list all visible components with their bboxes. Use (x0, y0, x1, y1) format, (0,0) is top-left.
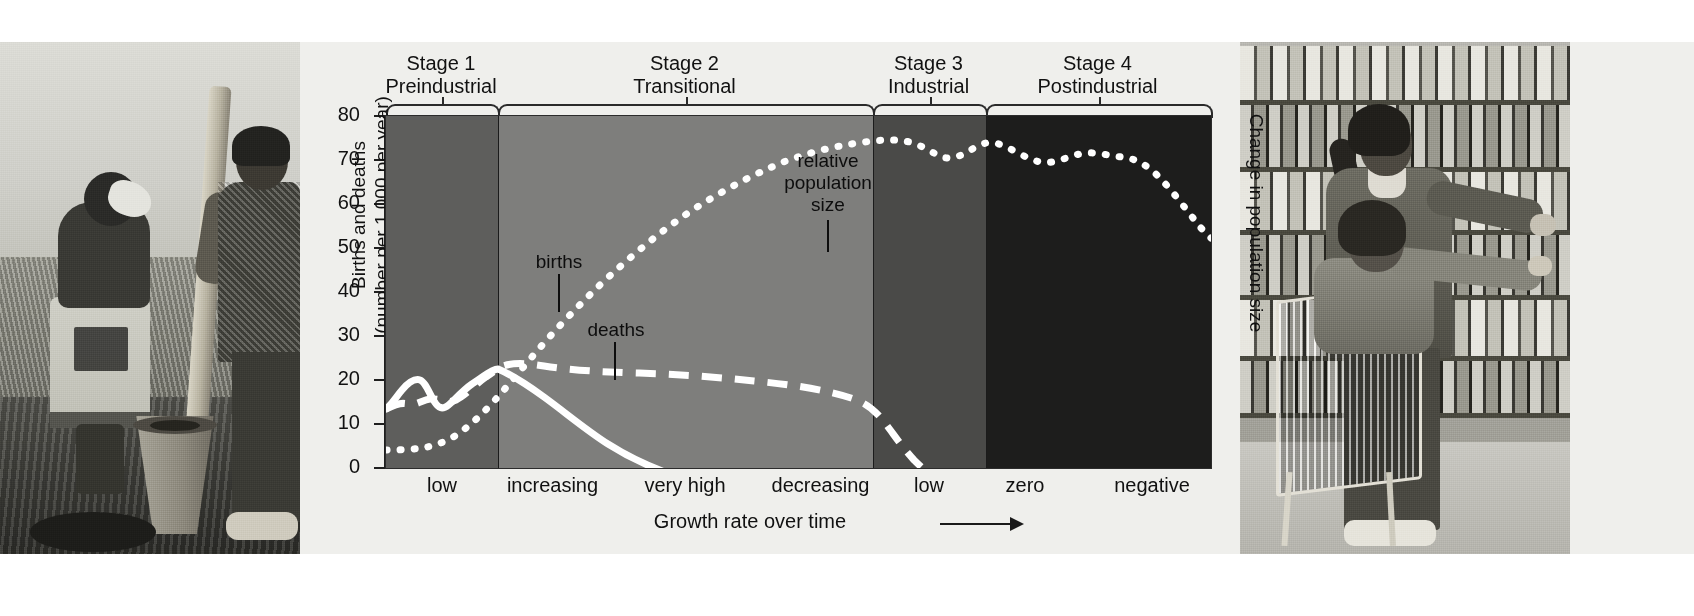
births-curve (386, 364, 1211, 469)
stage-2-number: Stage 2 (497, 52, 872, 75)
relative-population-size-line-3: size (758, 194, 898, 216)
skirt-print (74, 327, 128, 371)
growth-rate-label-decreasing: decreasing (748, 474, 893, 497)
x-axis-title: Growth rate over time (540, 510, 960, 533)
stage-4-heading: Stage 4 Postindustrial (985, 52, 1210, 98)
y-axis-right-title: Change in population size (1245, 73, 1267, 373)
plot-area: relative population size births deaths (385, 115, 1212, 469)
deaths-leader (614, 342, 616, 380)
y-tick-20 (374, 379, 385, 381)
stage-1-name: Preindustrial (385, 75, 497, 98)
figure-page: Two women pounding grain with mortar and… (0, 0, 1694, 616)
growth-rate-label-low-1: low (386, 474, 498, 497)
woman-standing-body (218, 182, 300, 362)
mortar-opening (150, 420, 200, 431)
relative-population-size-annotation: relative population size (758, 150, 898, 216)
relative-population-size-line-2: population (758, 172, 898, 194)
stage-4-number: Stage 4 (985, 52, 1210, 75)
y-tick-label-10: 10 (314, 411, 360, 434)
photo-postindustrial: Mother and child selecting packaged good… (1240, 42, 1570, 554)
sandal (226, 512, 298, 540)
stage-4-name: Postindustrial (985, 75, 1210, 98)
y-tick-10 (374, 423, 385, 425)
woman-standing-hair (232, 126, 290, 166)
shelf-products-row-1 (1240, 46, 1570, 100)
child-hair (1338, 200, 1406, 256)
stage-2-heading: Stage 2 Transitional (497, 52, 872, 98)
woman-bending-legs (76, 424, 124, 494)
growth-rate-label-very-high: very high (620, 474, 750, 497)
births-annotation: births (514, 251, 604, 273)
y-tick-label-20: 20 (314, 367, 360, 390)
x-axis-arrow-line (940, 523, 1014, 525)
y-axis-title-line-1: Births and deaths (347, 65, 370, 365)
deaths-annotation: deaths (566, 319, 666, 341)
relative-population-size-leader (827, 220, 829, 252)
relative-population-size-line-1: relative (758, 150, 898, 172)
growth-rate-label-low-2: low (876, 474, 982, 497)
growth-rate-label-increasing: increasing (485, 474, 620, 497)
births-leader (558, 274, 560, 312)
demographic-transition-chart: Stage 1 Preindustrial Stage 2 Transition… (300, 42, 1240, 554)
mother-hand (1530, 214, 1556, 236)
stage-3-heading: Stage 3 Industrial (872, 52, 985, 98)
deaths-curve (386, 369, 1211, 469)
stage-3-name: Industrial (872, 75, 985, 98)
growth-rate-label-negative: negative (1088, 474, 1216, 497)
photo-preindustrial: Two women pounding grain with mortar and… (0, 42, 300, 554)
x-axis-arrow-head-icon (1010, 517, 1024, 531)
growth-rate-label-zero: zero (972, 474, 1078, 497)
y-tick-0 (374, 467, 385, 469)
stage-1-number: Stage 1 (385, 52, 497, 75)
mother-hair (1348, 104, 1410, 156)
stage-3-number: Stage 3 (872, 52, 985, 75)
child-hand (1528, 256, 1552, 276)
woman-standing-legs (232, 352, 300, 522)
stage-1-heading: Stage 1 Preindustrial (385, 52, 497, 98)
stage-2-name: Transitional (497, 75, 872, 98)
ground-basin (30, 512, 156, 552)
y-tick-label-0: 0 (314, 455, 360, 478)
